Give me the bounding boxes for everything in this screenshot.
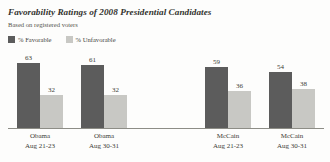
legend-item-unfavorable: % Unfavorable	[66, 36, 116, 43]
bar-wrap-unfavorable: 36	[228, 56, 251, 128]
bar-value-favorable: 54	[269, 63, 292, 71]
bar-value-unfavorable: 32	[104, 86, 127, 94]
bar-group-mccain-1: 59 36	[196, 56, 260, 128]
bar-unfavorable	[104, 95, 127, 128]
bar-value-favorable: 59	[205, 58, 228, 66]
category-labels: Obama Aug 21-23 Obama Aug 30-31 McCain A…	[8, 131, 324, 151]
chart-legend: % Favorable % Unfavorable	[8, 34, 322, 44]
bar-group-mccain-2: 54 38	[260, 56, 324, 128]
bar-value-favorable: 61	[81, 56, 104, 64]
bar-favorable	[269, 72, 292, 128]
bar-group-obama-1: 63 32	[8, 56, 72, 128]
category-date: Aug 21-23	[196, 141, 260, 151]
category-candidate: McCain	[260, 131, 324, 141]
category-date: Aug 21-23	[8, 141, 72, 151]
legend-item-favorable: % Favorable	[8, 36, 52, 43]
category-label-obama-1: Obama Aug 21-23	[8, 131, 72, 151]
bar-unfavorable	[292, 89, 315, 128]
plot-area: 63 32 61 32	[8, 56, 324, 128]
square-swatch-light-icon	[66, 36, 73, 43]
bar-wrap-unfavorable: 32	[104, 56, 127, 128]
bar-unfavorable	[228, 91, 251, 128]
bar-groups-row: 63 32 61 32	[8, 56, 324, 128]
bar-favorable	[205, 67, 228, 128]
category-candidate: McCain	[196, 131, 260, 141]
category-date: Aug 30-31	[72, 141, 136, 151]
bar-wrap-favorable: 59	[205, 56, 228, 128]
bar-wrap-favorable: 61	[81, 56, 104, 128]
bar-wrap-favorable: 63	[17, 56, 40, 128]
category-label-mccain-2: McCain Aug 30-31	[260, 131, 324, 151]
bar-unfavorable	[40, 95, 63, 128]
x-axis-baseline	[8, 128, 324, 129]
category-gap	[136, 131, 196, 151]
bar-value-unfavorable: 36	[228, 82, 251, 90]
bar-value-favorable: 63	[17, 54, 40, 62]
bar-favorable	[81, 65, 104, 128]
bar-wrap-favorable: 54	[269, 56, 292, 128]
chart-subtitle: Based on registered voters	[8, 19, 322, 30]
bar-value-unfavorable: 38	[292, 80, 315, 88]
favorability-bar-chart: Favorability Ratings of 2008 Presidentia…	[0, 0, 330, 162]
legend-label-unfavorable: % Unfavorable	[76, 36, 116, 43]
category-candidate: Obama	[72, 131, 136, 141]
chart-title: Favorability Ratings of 2008 Presidentia…	[8, 6, 322, 18]
bar-wrap-unfavorable: 32	[40, 56, 63, 128]
bar-value-unfavorable: 32	[40, 86, 63, 94]
category-label-obama-2: Obama Aug 30-31	[72, 131, 136, 151]
bar-wrap-unfavorable: 38	[292, 56, 315, 128]
category-label-mccain-1: McCain Aug 21-23	[196, 131, 260, 151]
category-candidate: Obama	[8, 131, 72, 141]
square-swatch-dark-icon	[8, 36, 15, 43]
bar-group-obama-2: 61 32	[72, 56, 136, 128]
bar-favorable	[17, 63, 40, 128]
category-date: Aug 30-31	[260, 141, 324, 151]
legend-label-favorable: % Favorable	[18, 36, 52, 43]
